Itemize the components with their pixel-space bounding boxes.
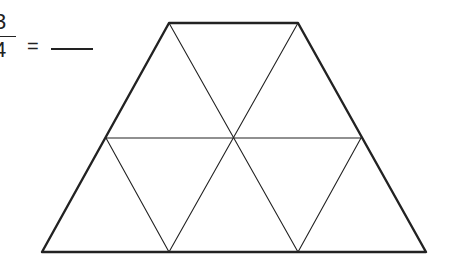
trapezoid-diagram	[0, 0, 450, 279]
diagonal-4	[298, 138, 361, 252]
diagonal-3	[106, 138, 169, 252]
